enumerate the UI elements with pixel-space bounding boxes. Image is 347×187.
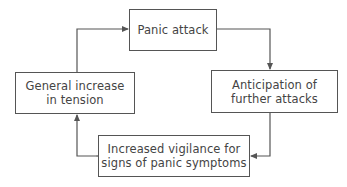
- arrow-panic-to-anticipation: [217, 29, 270, 69]
- node-vigilance-line2: signs of panic symptoms: [101, 156, 246, 170]
- node-general-tension-line1: General increase: [25, 79, 124, 93]
- node-panic-attack-label: Panic attack: [137, 23, 208, 37]
- arrow-vigilance-to-tension: [77, 115, 97, 156]
- node-panic-attack: Panic attack: [129, 9, 217, 51]
- node-anticipation-line1: Anticipation of: [232, 78, 317, 92]
- node-vigilance-line1: Increased vigilance for: [108, 142, 241, 156]
- node-anticipation-line2: further attacks: [231, 92, 318, 106]
- node-general-tension-line2: in tension: [46, 93, 104, 107]
- panic-cycle-diagram: Panic attack Anticipation of further att…: [0, 0, 347, 187]
- node-anticipation: Anticipation of further attacks: [211, 70, 338, 113]
- node-vigilance: Increased vigilance for signs of panic s…: [98, 135, 250, 177]
- arrow-tension-to-panic: [77, 29, 128, 72]
- arrow-anticipation-to-vigilance: [251, 113, 270, 156]
- node-general-tension: General increase in tension: [15, 72, 135, 114]
